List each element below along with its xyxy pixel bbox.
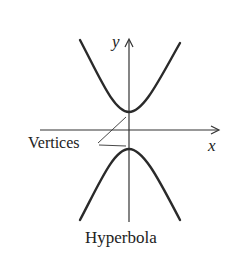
- upper-branch: [80, 40, 180, 112]
- y-axis-label: y: [112, 32, 120, 52]
- lower-branch: [80, 149, 180, 220]
- vertices-label: Vertices: [28, 134, 80, 152]
- figure-caption: Hyperbola: [85, 228, 157, 248]
- x-axis-label: x: [208, 136, 216, 156]
- vertex-leader-lower: [99, 145, 126, 146]
